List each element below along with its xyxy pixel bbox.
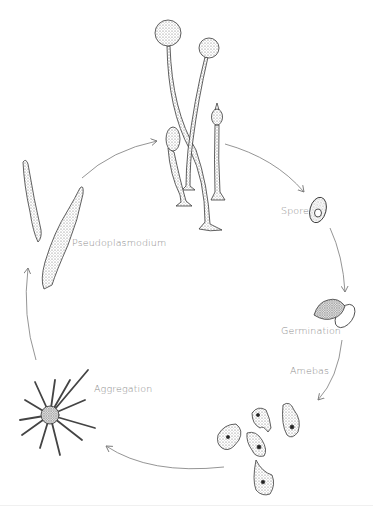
label-pseudoplasmodium: Pseudoplasmodium: [72, 238, 166, 248]
arrow-spore-to-germination: [330, 228, 345, 292]
amebas-illustration: [218, 403, 300, 495]
life-cycle-illustration: [0, 0, 373, 506]
label-spore: Spore: [281, 206, 309, 216]
label-aggregation: Aggregation: [94, 384, 152, 394]
pseudoplasmodium-illustration: [23, 160, 83, 289]
label-amebas: Amebas: [290, 366, 329, 376]
arrow-amebas-to-aggregation: [106, 446, 224, 469]
aggregation-illustration: [20, 370, 95, 455]
arrow-fruiting-to-spore: [225, 144, 304, 192]
fruiting-bodies-illustration: [155, 20, 225, 231]
arrow-pseudoplasmodium-to-fruiting: [82, 141, 157, 178]
label-germination: Germination: [281, 326, 341, 336]
arrow-aggregation-to-pseudoplasmodium: [26, 268, 36, 360]
spore-illustration: [307, 195, 329, 224]
